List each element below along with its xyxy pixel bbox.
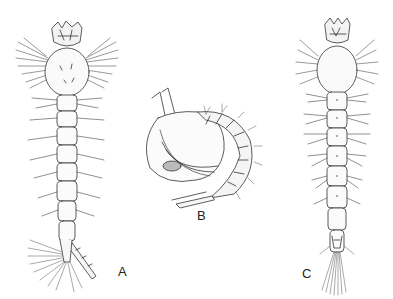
panel-label-a: A xyxy=(118,264,127,279)
panel-label-b: B xyxy=(197,208,206,223)
larva-a-drawing xyxy=(16,21,118,292)
panel-label-c: C xyxy=(302,266,311,281)
pupa-b-drawing xyxy=(146,88,262,208)
illustration-canvas xyxy=(0,0,393,299)
larva-c-drawing xyxy=(296,18,378,295)
